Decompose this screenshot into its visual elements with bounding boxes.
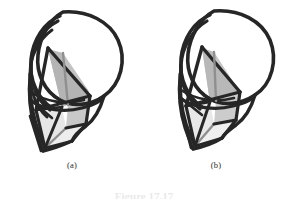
- figure-panel-a: [0, 0, 144, 160]
- drawing-a: [0, 0, 144, 160]
- drawing-a-content: [29, 12, 122, 151]
- figure-sheet: (a): [0, 0, 288, 199]
- panel-a-label: (a): [0, 160, 144, 170]
- drawing-b: [144, 0, 288, 160]
- drawing-b-content: [179, 11, 273, 149]
- panel-b-label: (b): [144, 160, 288, 170]
- figure-panel-b: [144, 0, 288, 160]
- figure-caption: Figure 17.17: [0, 190, 288, 199]
